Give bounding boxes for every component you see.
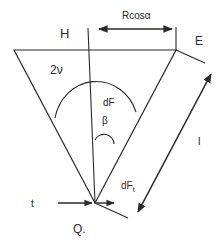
label-h: H xyxy=(60,26,69,41)
label-2nu: 2ν xyxy=(50,63,63,77)
label-dft-sub: t xyxy=(133,186,135,193)
angle-arc-beta xyxy=(95,134,114,144)
label-df: dF xyxy=(103,97,115,108)
force-diagram: H Rcosα E 2ν dF β l dFt t Q. xyxy=(0,0,223,243)
label-dft-main: dF xyxy=(121,180,133,191)
label-e: E xyxy=(195,34,203,48)
triangle-outline xyxy=(14,50,176,203)
label-q: Q. xyxy=(73,222,86,236)
vertical-axis-line xyxy=(88,28,95,203)
angle-arc-2nu xyxy=(55,82,136,118)
lower-edge-line xyxy=(95,203,128,218)
label-dft: dFt xyxy=(121,180,135,193)
label-rcos: Rcosα xyxy=(122,10,151,21)
e-edge-line xyxy=(176,50,205,63)
label-l: l xyxy=(198,135,200,147)
label-t: t xyxy=(31,198,34,209)
label-beta: β xyxy=(102,115,108,126)
